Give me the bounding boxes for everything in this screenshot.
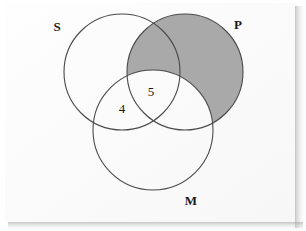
page-shadow-left [0,0,5,231]
page-shadow-right [295,6,306,228]
page-shadow-top [0,0,306,3]
set-label-P: P [234,17,242,32]
venn-diagram-canvas: S P M 4 5 [0,0,306,231]
region-count-s-p-m: 5 [148,84,155,99]
venn-diagram-figure: S P M 4 5 [0,0,306,231]
set-label-S: S [53,19,60,34]
region-count-s-m: 4 [119,101,126,116]
page-shadow-bottom [8,222,303,231]
set-label-M: M [185,193,197,208]
